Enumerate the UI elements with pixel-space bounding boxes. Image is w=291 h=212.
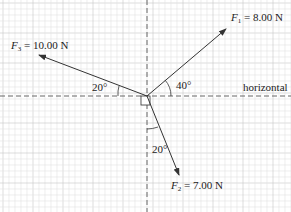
grid	[0, 0, 291, 212]
horizontal-label: horizontal	[243, 82, 288, 93]
angle-arc-f1	[165, 80, 171, 96]
angle-f2-label: 20°	[152, 144, 167, 155]
diagram-canvas	[0, 0, 291, 212]
angle-arc-f3	[118, 86, 119, 96]
angle-f1-label: 40°	[176, 80, 191, 91]
force-f1-label: F1 = 8.00 N	[231, 12, 283, 25]
force-f3-label: F3 = 10.00 N	[11, 40, 68, 53]
angle-f3-label: 20°	[92, 82, 107, 93]
force-f2-arrow	[147, 96, 179, 175]
force-f2-label: F2 = 7.00 N	[171, 180, 223, 193]
force-diagram: F1 = 8.00 N F3 = 10.00 N F2 = 7.00 N 40°…	[0, 0, 291, 212]
